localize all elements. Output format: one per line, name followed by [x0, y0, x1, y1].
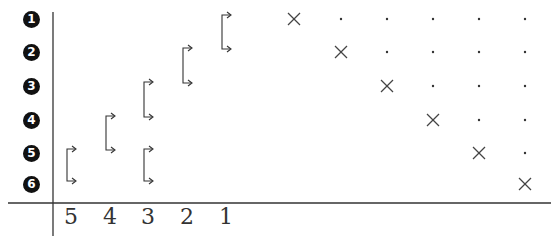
bracket-arrow-icon: [183, 43, 192, 86]
column-label-3: 3: [141, 204, 155, 229]
dot-marker: [432, 18, 434, 20]
x-mark-icon: [519, 178, 531, 190]
row-label-3: 3: [23, 78, 40, 95]
column-label-1: 1: [219, 204, 233, 229]
dot-marker: [478, 119, 480, 121]
x-mark-icon: [473, 147, 485, 159]
dot-marker: [478, 18, 480, 20]
row-label-6: 6: [23, 176, 40, 193]
bracket-arrow-icon: [106, 111, 115, 153]
bracket-arrow-icon: [144, 77, 153, 120]
dot-marker: [524, 85, 526, 87]
matrix-cells: [288, 13, 531, 190]
dot-marker: [432, 85, 434, 87]
dot-marker: [386, 18, 388, 20]
diagram-canvas: 123456 54321: [0, 0, 558, 242]
diagram-svg: [0, 0, 558, 242]
x-mark-icon: [335, 46, 347, 58]
column-label-2: 2: [180, 204, 194, 229]
dot-marker: [524, 18, 526, 20]
row-label-1: 1: [23, 11, 40, 28]
dot-marker: [478, 51, 480, 53]
dot-marker: [524, 119, 526, 121]
x-mark-icon: [381, 80, 393, 92]
row-label-5: 5: [23, 145, 40, 162]
dot-marker: [340, 18, 342, 20]
dot-marker: [524, 51, 526, 53]
x-mark-icon: [427, 114, 439, 126]
dot-marker: [386, 51, 388, 53]
column-label-4: 4: [103, 204, 117, 229]
dot-marker: [524, 152, 526, 154]
row-label-2: 2: [23, 44, 40, 61]
bracket-arrow-icon: [144, 144, 153, 184]
bracket-arrow-icon: [67, 144, 76, 184]
bracket-group: [67, 10, 231, 184]
dot-marker: [478, 85, 480, 87]
x-mark-icon: [288, 13, 300, 25]
row-label-4: 4: [23, 112, 40, 129]
column-label-5: 5: [64, 204, 78, 229]
dot-marker: [432, 51, 434, 53]
bracket-arrow-icon: [222, 10, 231, 52]
